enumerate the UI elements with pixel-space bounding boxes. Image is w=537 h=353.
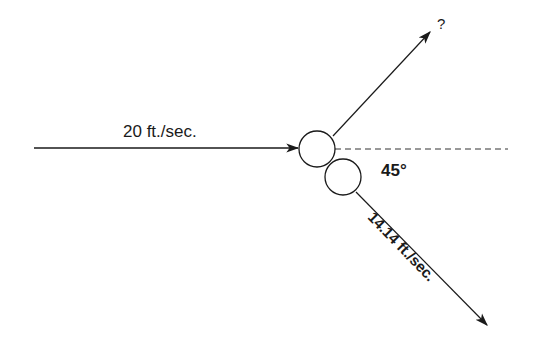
incoming-speed-label: 20 ft./sec.: [123, 122, 197, 141]
collision-diagram: 20 ft./sec. ? 45° 14.14 ft./sec.: [0, 0, 537, 353]
ball-upper: [299, 131, 335, 167]
upper-outgoing-vector: [333, 32, 430, 136]
unknown-speed-label: ?: [437, 15, 445, 32]
ball-lower: [325, 159, 361, 195]
angle-label: 45°: [381, 161, 407, 180]
outgoing-speed-label: 14.14 ft./sec.: [365, 208, 439, 284]
